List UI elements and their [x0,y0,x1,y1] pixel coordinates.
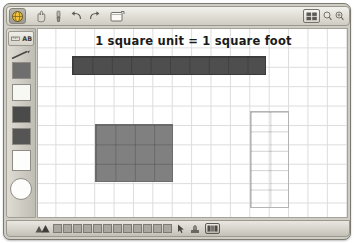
globe-icon [11,10,24,23]
shape-tall-outline-rectangle[interactable] [250,111,289,208]
redo-button[interactable] [86,8,103,24]
color-swatch-dark-gray[interactable] [12,62,31,79]
app-menu-button[interactable] [9,8,26,24]
toolbar-button-group [7,8,126,24]
status-swatch-3[interactable] [73,224,82,233]
grid-toggle-button[interactable] [303,9,320,23]
toolbar-right-group [303,9,349,23]
text-tool[interactable]: ABC [22,33,32,44]
color-swatch-charcoal[interactable] [12,106,31,123]
folder-icon [110,10,125,23]
terrain-icon-glyph [35,224,50,233]
palette-tool-row: ABC [8,31,34,46]
ruler-tool[interactable] [10,33,20,44]
status-swatch-1[interactable] [53,224,62,233]
undo-button[interactable] [68,8,85,24]
magnifier-minus-icon [323,11,332,21]
open-file-button[interactable] [109,8,126,24]
text-abc-icon: ABC [22,34,32,43]
terrain-icon[interactable] [35,224,50,233]
pencil-icon [10,50,32,60]
magnifier-plus-icon [335,11,344,21]
color-swatch-white[interactable] [12,84,31,101]
svg-text:ABC: ABC [22,35,32,42]
cursor-arrow-icon[interactable] [175,223,186,234]
color-swatch-blank[interactable] [12,150,31,171]
status-swatch-4[interactable] [83,224,92,233]
display-mode-button[interactable] [205,223,220,234]
bottom-status-bar [6,220,350,237]
status-swatch-9[interactable] [133,224,142,233]
redo-arrow-icon [88,10,101,22]
grid-icon [306,12,318,21]
undo-arrow-icon [70,10,83,22]
hand-icon [35,10,47,23]
status-swatch-10[interactable] [143,224,152,233]
left-tool-palette: ABC [6,28,36,218]
status-swatch-12[interactable] [163,224,172,233]
zoom-out-button[interactable] [323,11,332,22]
pencil-tool[interactable] [9,49,33,60]
ruler-icon [11,34,20,43]
stamp-glyph [190,224,200,234]
layout-icon [207,225,218,232]
canvas-title-text: 1 square unit = 1 square foot [38,34,348,48]
status-swatch-8[interactable] [123,224,132,233]
drawing-canvas[interactable]: 1 square unit = 1 square foot [37,28,348,218]
status-swatch-2[interactable] [63,224,72,233]
status-swatch-7[interactable] [113,224,122,233]
shape-medium-rectangle[interactable] [95,124,173,182]
brush-icon [53,10,64,23]
ellipse-tool[interactable] [10,178,32,200]
status-swatch-6[interactable] [103,224,112,233]
shape-horizontal-rectangle[interactable] [72,56,266,75]
color-swatch-graphite[interactable] [12,128,31,145]
stamp-icon[interactable] [189,223,200,234]
status-swatch-11[interactable] [153,224,162,233]
select-tool-button[interactable] [32,8,49,24]
application-window: ABC 1 square unit = 1 square foot [3,3,351,240]
paint-tool-button[interactable] [50,8,67,24]
zoom-in-button[interactable] [335,11,344,22]
top-toolbar [6,6,350,26]
status-swatch-5[interactable] [93,224,102,233]
cursor-arrow-glyph [177,224,185,234]
